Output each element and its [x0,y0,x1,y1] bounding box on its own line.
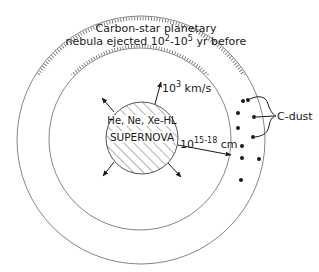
nebula-label-line2: nebula ejected 102-105 yr before [66,34,247,48]
supernova-noble-gas-label: He, Ne, Xe-HL [107,115,177,126]
carbon-dust-grains [236,98,261,182]
arrow-down-left [103,162,114,176]
arrow-up-left [102,98,114,112]
carbon-dust-label: C-dust [277,110,313,123]
velocity-label: 103 km/s [162,80,211,95]
nebula-label-line1: Carbon-star planetary [95,22,216,35]
supernova-nebula-diagram: Carbon-star planetary nebula ejected 102… [0,0,319,272]
arrow-down-right [168,163,181,177]
distance-label: 1015-18 cm [180,136,238,151]
arrow-up-right [155,82,161,104]
supernova-label: SUPERNOVA [110,131,175,143]
